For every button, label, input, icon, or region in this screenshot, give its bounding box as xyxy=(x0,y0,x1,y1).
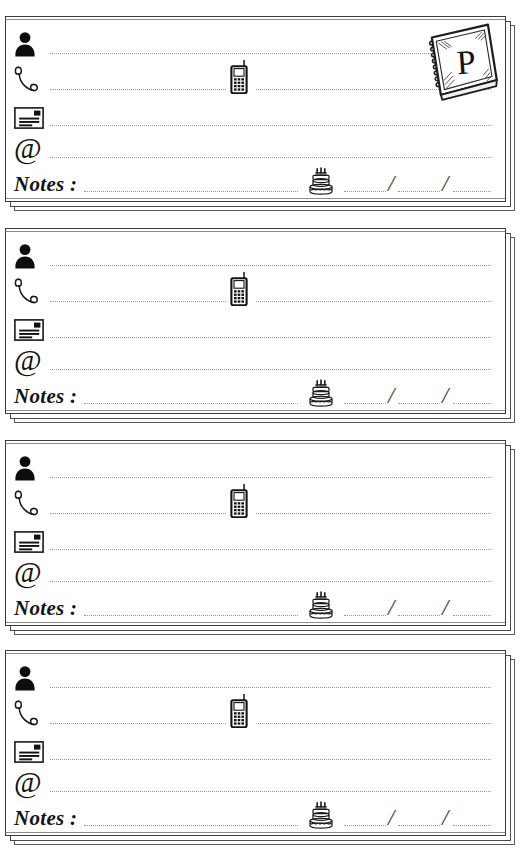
phone-input[interactable] xyxy=(50,723,226,724)
notes-label: Notes : xyxy=(14,596,77,621)
birthday-day-input[interactable] xyxy=(344,615,386,616)
name-input[interactable] xyxy=(50,265,491,266)
date-separator-2: / xyxy=(442,172,448,195)
card-face: @Notes :// xyxy=(5,440,506,626)
email-input[interactable] xyxy=(50,369,491,370)
notes-label: Notes : xyxy=(14,384,77,409)
birthday-year-input[interactable] xyxy=(453,191,491,192)
address-input[interactable] xyxy=(50,549,491,550)
birthday-cake-icon xyxy=(304,379,338,409)
at-sign-icon: @ xyxy=(14,129,48,161)
field-row-email: @ xyxy=(6,339,505,375)
telephone-handset-icon xyxy=(14,695,48,727)
date-separator-2: / xyxy=(442,596,448,619)
field-row-email: @ xyxy=(6,551,505,587)
card-fields: @Notes ://P xyxy=(6,17,505,201)
mobile-input[interactable] xyxy=(256,723,491,724)
at-sign-icon: @ xyxy=(14,763,48,795)
person-icon xyxy=(14,25,48,57)
field-row-name xyxy=(6,657,505,693)
birthday-month-input[interactable] xyxy=(398,191,440,192)
field-row-phone xyxy=(6,483,505,519)
person-icon xyxy=(14,659,48,691)
card-face: @Notes :// xyxy=(5,228,506,414)
phone-input[interactable] xyxy=(50,301,226,302)
field-row-name xyxy=(6,235,505,271)
card-fields: @Notes :// xyxy=(6,441,505,625)
birthday-month-input[interactable] xyxy=(398,825,440,826)
phone-input[interactable] xyxy=(50,513,226,514)
mobile-phone-icon xyxy=(228,60,250,94)
birthday-year-input[interactable] xyxy=(453,403,491,404)
contact-card[interactable]: @Notes :// xyxy=(5,228,515,414)
phone-input[interactable] xyxy=(50,89,226,90)
birthday-month-input[interactable] xyxy=(398,403,440,404)
field-row-email: @ xyxy=(6,761,505,797)
mobile-input[interactable] xyxy=(256,301,491,302)
mobile-phone-icon xyxy=(228,272,250,306)
email-input[interactable] xyxy=(50,791,491,792)
telephone-handset-icon xyxy=(14,273,48,305)
card-fields: @Notes :// xyxy=(6,651,505,835)
contact-card[interactable]: @Notes ://P xyxy=(5,16,515,202)
birthday-month-input[interactable] xyxy=(398,615,440,616)
date-separator-2: / xyxy=(442,806,448,829)
envelope-icon xyxy=(14,309,48,341)
notes-input[interactable] xyxy=(84,403,298,404)
mobile-phone-icon xyxy=(228,694,250,728)
field-row-phone xyxy=(6,271,505,307)
person-icon xyxy=(14,237,48,269)
address-input[interactable] xyxy=(50,337,491,338)
notes-input[interactable] xyxy=(84,825,298,826)
date-separator-1: / xyxy=(388,172,394,195)
telephone-handset-icon xyxy=(14,61,48,93)
card-face: @Notes ://P xyxy=(5,16,506,202)
person-icon xyxy=(14,449,48,481)
address-input[interactable] xyxy=(50,759,491,760)
field-row-address xyxy=(6,307,505,343)
birthday-cake-icon xyxy=(304,167,338,197)
contact-card[interactable]: @Notes :// xyxy=(5,650,515,836)
card-fields: @Notes :// xyxy=(6,229,505,413)
field-row-notes-birthday: Notes :// xyxy=(6,795,505,831)
birthday-year-input[interactable] xyxy=(453,825,491,826)
notes-label: Notes : xyxy=(14,172,77,197)
field-row-notes-birthday: Notes :// xyxy=(6,373,505,409)
telephone-handset-icon xyxy=(14,485,48,517)
notes-input[interactable] xyxy=(84,615,298,616)
date-separator-1: / xyxy=(388,596,394,619)
birthday-day-input[interactable] xyxy=(344,825,386,826)
date-separator-2: / xyxy=(442,384,448,407)
mobile-phone-icon xyxy=(228,484,250,518)
birthday-cake-icon xyxy=(304,591,338,621)
birthday-year-input[interactable] xyxy=(453,615,491,616)
field-row-email: @ xyxy=(6,127,505,163)
address-input[interactable] xyxy=(50,125,491,126)
birthday-day-input[interactable] xyxy=(344,403,386,404)
at-glyph: @ xyxy=(14,559,42,585)
at-glyph: @ xyxy=(14,347,42,373)
date-separator-1: / xyxy=(388,384,394,407)
contact-card[interactable]: @Notes :// xyxy=(5,440,515,626)
spiral-notebook-icon: P xyxy=(425,21,499,101)
envelope-icon xyxy=(14,97,48,129)
at-glyph: @ xyxy=(14,135,42,161)
date-separator-1: / xyxy=(388,806,394,829)
field-row-notes-birthday: Notes :// xyxy=(6,585,505,621)
at-sign-icon: @ xyxy=(14,341,48,373)
address-book-page: @Notes ://P@Notes ://@Notes ://@Notes :/… xyxy=(0,0,531,860)
birthday-cake-icon xyxy=(304,801,338,831)
envelope-icon xyxy=(14,731,48,763)
envelope-icon xyxy=(14,521,48,553)
email-input[interactable] xyxy=(50,581,491,582)
mobile-input[interactable] xyxy=(256,513,491,514)
birthday-day-input[interactable] xyxy=(344,191,386,192)
card-face: @Notes :// xyxy=(5,650,506,836)
field-row-notes-birthday: Notes :// xyxy=(6,161,505,197)
name-input[interactable] xyxy=(50,477,491,478)
email-input[interactable] xyxy=(50,157,491,158)
field-row-address xyxy=(6,519,505,555)
notes-input[interactable] xyxy=(84,191,298,192)
name-input[interactable] xyxy=(50,687,491,688)
notes-label: Notes : xyxy=(14,806,77,831)
